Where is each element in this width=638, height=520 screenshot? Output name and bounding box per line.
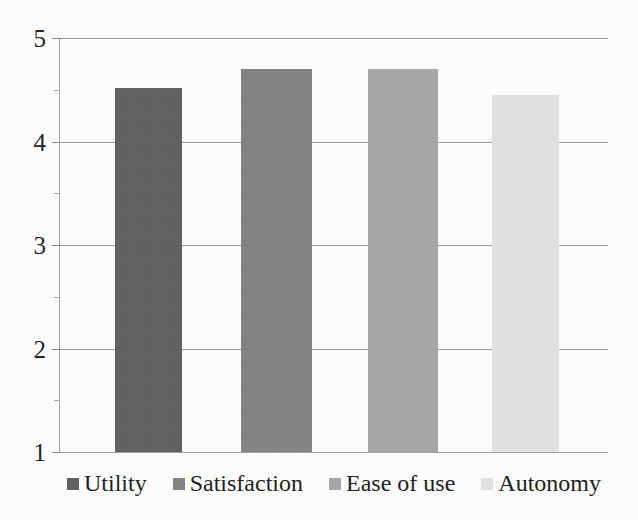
legend-swatch-icon	[173, 478, 185, 490]
legend-swatch-icon	[329, 478, 341, 490]
legend-item-label: Ease of use	[346, 471, 455, 495]
legend-item-label: Utility	[84, 471, 147, 495]
y-axis-major-tick	[52, 452, 60, 453]
legend-item-label: Satisfaction	[190, 471, 303, 495]
bar-fill	[368, 69, 438, 452]
legend-item-ease-of-use[interactable]: Ease of use	[329, 471, 455, 495]
gridline	[60, 38, 608, 39]
bar-chart-figure: 1 2 3 4 5 UtilitySatisfactionEase of use…	[0, 0, 638, 520]
bar-autonomy[interactable]	[492, 95, 559, 452]
y-axis-major-tick	[52, 349, 60, 350]
legend-item-label: Autonomy	[498, 471, 601, 495]
y-axis-tick-label-1: 1	[0, 440, 46, 465]
y-axis-tick-label-4: 4	[0, 129, 46, 154]
bar-ease-of-use[interactable]	[368, 69, 438, 452]
legend-item-utility[interactable]: Utility	[67, 471, 147, 495]
bar-utility[interactable]	[115, 88, 182, 452]
y-axis-major-tick	[52, 142, 60, 143]
y-axis-tick-label-2: 2	[0, 336, 46, 361]
legend-swatch-icon	[481, 478, 493, 490]
chart-legend: UtilitySatisfactionEase of useAutonomy	[60, 466, 608, 500]
bar-fill	[492, 95, 559, 452]
y-axis-major-tick	[52, 245, 60, 246]
y-axis-major-tick	[52, 38, 60, 39]
bar-fill	[115, 88, 182, 452]
y-axis-tick-label-5: 5	[0, 26, 46, 51]
legend-item-satisfaction[interactable]: Satisfaction	[173, 471, 303, 495]
legend-item-autonomy[interactable]: Autonomy	[481, 471, 601, 495]
legend-swatch-icon	[67, 478, 79, 490]
axis-baseline	[60, 452, 608, 453]
plot-area	[60, 38, 608, 452]
y-axis-tick-label-3: 3	[0, 233, 46, 258]
bar-fill	[241, 69, 312, 452]
bar-satisfaction[interactable]	[241, 69, 312, 452]
